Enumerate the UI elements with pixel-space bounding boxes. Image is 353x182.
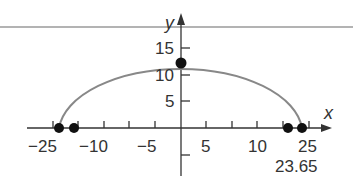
x-tick-label-m10: −10: [79, 138, 108, 155]
y-axis-label: y: [165, 14, 174, 32]
y-tick-label-15: 15: [155, 40, 174, 57]
x-axis-arrow-icon: [321, 124, 332, 132]
x-tick-label-m25: −25: [28, 138, 57, 155]
y-tick-label-5: 5: [165, 93, 174, 110]
y-axis-arrow-icon: [177, 13, 185, 25]
y-tick-label-10: 10: [155, 67, 174, 84]
x-tick-label-10: 10: [248, 138, 267, 155]
x-axis-label: x: [324, 104, 333, 122]
x-tick-label-25: 25: [298, 138, 317, 155]
annotation-23-65: 23.65: [275, 158, 318, 175]
x-tick-label-m5: −5: [137, 138, 156, 155]
x-tick-label-5: 5: [201, 138, 210, 155]
